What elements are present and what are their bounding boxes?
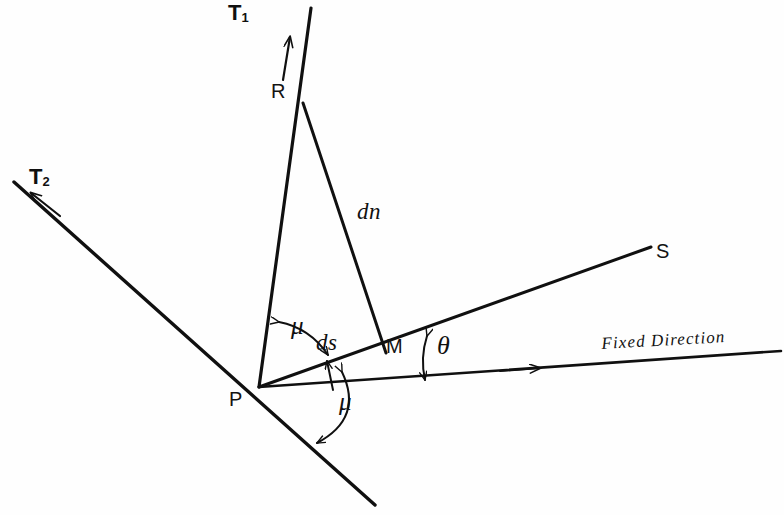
angle-label-mu-lower: μ [339,389,352,414]
point-label-m: M [386,336,403,356]
angle-label-mu-upper: μ [291,313,304,338]
fixed-direction-line [259,351,781,387]
angle-arc-theta [423,336,427,380]
angle-label-theta: θ [437,333,450,359]
point-label-r: R [271,81,285,101]
chord-dn [303,103,386,353]
ds-tick-arrow [327,361,333,390]
tangent-label-t1: T1 [228,2,249,24]
tangent-label-t2: T2 [29,166,50,188]
segment-label-ds: ds [316,331,337,354]
segment-label-dn: dn [357,200,381,223]
geometry-figure: T1 T2 R P M S dn ds μ μ θ Fixed Directio… [0,0,784,515]
point-label-s: S [656,241,669,261]
point-label-p: P [229,389,242,409]
ray-PS [259,247,651,387]
